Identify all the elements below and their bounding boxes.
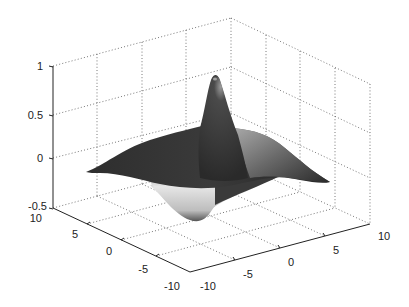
- y-tick-label: 0: [106, 245, 112, 257]
- y-tick-labels: 10 5 0 -5 -10: [30, 212, 180, 292]
- x-tick-labels: -10 -5 0 5 10: [200, 230, 390, 292]
- y-tick-label: 10: [30, 212, 42, 224]
- x-tick-label: 5: [333, 244, 339, 256]
- x-tick-label: -5: [243, 268, 253, 280]
- z-tick-label: 1: [37, 60, 43, 72]
- z-tick-label: -0.5: [28, 200, 47, 212]
- x-tick-label: 0: [288, 256, 294, 268]
- y-tick-label: -5: [138, 263, 148, 275]
- x-tick-label: -10: [200, 280, 216, 292]
- z-tick-labels: 1 0.5 0 -0.5: [28, 60, 47, 212]
- y-tick-label: 5: [72, 228, 78, 240]
- surface: [86, 75, 330, 221]
- surface-plot-figure: 1 0.5 0 -0.5 10 5 0 -5 -10 -10 -5 0 5 10: [0, 0, 409, 307]
- x-tick-label: 10: [378, 230, 390, 242]
- plot-canvas: 1 0.5 0 -0.5 10 5 0 -5 -10 -10 -5 0 5 10: [0, 0, 409, 307]
- z-tick-label: 0.5: [28, 109, 43, 121]
- z-tick-label: 0: [37, 152, 43, 164]
- y-tick-label: -10: [164, 280, 180, 292]
